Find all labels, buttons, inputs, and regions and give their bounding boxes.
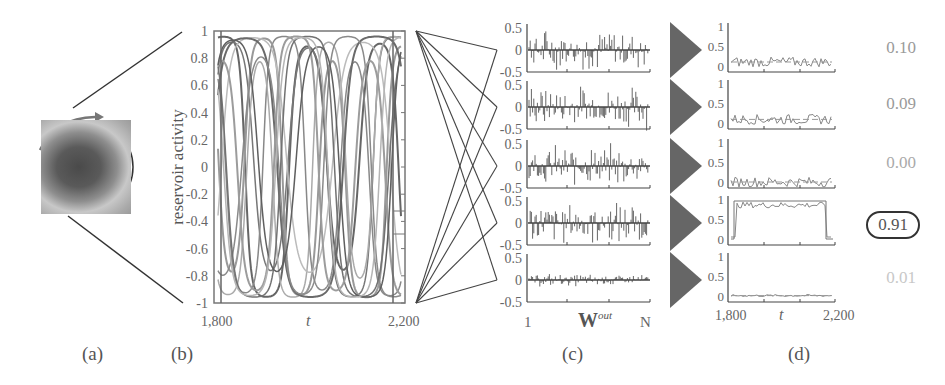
- readout-triangle-icon: [670, 252, 702, 308]
- y-tick-label: 0: [515, 273, 522, 288]
- y-tick-label: 0.5: [505, 78, 523, 93]
- c-x-start: 1: [524, 314, 532, 331]
- b-x-start: 1,800: [201, 314, 233, 330]
- y-tick-label: 0.5: [505, 194, 523, 209]
- y-tick-label: 0.5: [708, 96, 724, 111]
- y-tick-label: 0: [515, 159, 522, 174]
- readout-triangle-icon: [670, 79, 702, 135]
- y-tick-label: 0: [201, 160, 208, 175]
- y-tick-label: 0: [515, 216, 522, 231]
- y-tick-label: 0.8: [191, 51, 209, 66]
- readout-connection-top: [416, 31, 497, 50]
- weight-bars: [529, 87, 648, 131]
- readout-connection-bottom: [416, 50, 497, 303]
- panel-label-a: (a): [82, 343, 103, 365]
- y-tick-label: 0: [718, 175, 725, 190]
- y-tick-label: 0.5: [505, 21, 523, 36]
- readout-output-trace: [731, 202, 831, 237]
- zoom-line-top: [73, 32, 182, 108]
- score-2: 0.09: [871, 94, 931, 114]
- y-tick-label: -0.5: [500, 122, 522, 137]
- y-tick-label: 1: [718, 19, 725, 34]
- readout-connection-top: [416, 31, 497, 223]
- y-tick-label: -0.4: [186, 214, 208, 229]
- y-tick-label: -0.5: [500, 295, 522, 310]
- y-tick-label: -0.2: [186, 187, 208, 202]
- score-1: 0.10: [871, 38, 931, 58]
- y-axis-label-reservoir-activity: reservoir activity: [168, 109, 188, 225]
- image-patch: [41, 120, 131, 214]
- panel-label-b: (b): [171, 343, 193, 365]
- y-tick-label: 0.4: [191, 106, 209, 121]
- d-x-label: t: [779, 306, 783, 324]
- y-tick-label: 0.5: [708, 212, 724, 227]
- y-tick-label: 1: [718, 249, 725, 264]
- readout-triangle-icon: [670, 22, 702, 78]
- readout-triangle-icon: [670, 138, 702, 194]
- y-tick-label: 0: [718, 232, 725, 247]
- y-tick-label: -0.6: [186, 242, 208, 257]
- weight-bars: [529, 143, 648, 185]
- readout-connection-bottom: [416, 107, 497, 303]
- d-x-end: 2,200: [823, 308, 855, 324]
- y-tick-label: 1: [201, 24, 208, 39]
- y-tick-label: 1: [718, 76, 725, 91]
- zoom-line-bottom: [68, 216, 183, 303]
- readout-connection-top: [416, 31, 497, 166]
- y-tick-label: 0: [515, 100, 522, 115]
- y-tick-label: 0: [718, 59, 725, 74]
- y-tick-label: 0.5: [505, 137, 523, 152]
- target-signal: [731, 201, 833, 239]
- y-tick-label: -0.8: [186, 269, 208, 284]
- readout-triangle-icon: [670, 195, 702, 251]
- y-tick-label: 0.5: [708, 269, 724, 284]
- c-x-label-w-out: Wout: [578, 309, 612, 332]
- y-tick-label: 1: [718, 135, 725, 150]
- score-3: 0.00: [871, 153, 931, 173]
- y-tick-label: 0: [718, 116, 725, 131]
- y-tick-label: 0.2: [191, 133, 209, 148]
- y-tick-label: 0.5: [708, 155, 724, 170]
- y-tick-label: 0: [718, 289, 725, 304]
- b-x-end: 2,200: [388, 314, 420, 330]
- y-tick-label: 0: [515, 43, 522, 58]
- panel-label-d: (d): [788, 343, 810, 365]
- b-x-label: t: [306, 312, 310, 330]
- score-4-highlighted: 0.91: [866, 211, 920, 239]
- y-tick-label: 1: [718, 192, 725, 207]
- score-5: 0.01: [871, 268, 931, 288]
- d-x-start: 1,800: [715, 308, 747, 324]
- y-tick-label: -1: [196, 296, 208, 311]
- y-tick-label: 0.5: [708, 39, 724, 54]
- c-x-end: N: [640, 314, 651, 331]
- y-tick-label: 0.5: [505, 251, 523, 266]
- panel-label-c: (c): [562, 343, 583, 365]
- y-tick-label: 0.6: [191, 78, 209, 93]
- figure-canvas: 10.80.60.40.20-0.2-0.4-0.6-0.8-10.50-0.5…: [0, 0, 945, 385]
